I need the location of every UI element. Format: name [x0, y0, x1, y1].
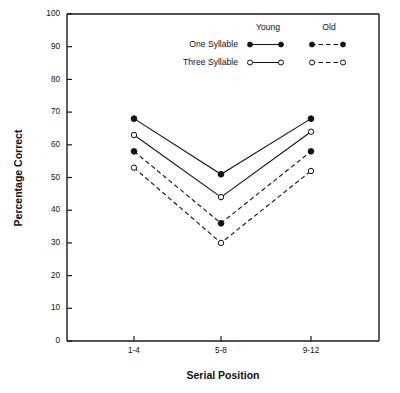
y-tick-label: 90 — [51, 42, 61, 51]
y-tick-label: 60 — [51, 140, 61, 149]
data-point-marker — [131, 132, 136, 137]
data-point-marker — [131, 148, 137, 154]
data-point-marker — [308, 116, 314, 122]
x-tick-label: 5-8 — [215, 346, 227, 355]
y-tick-label: 50 — [51, 173, 61, 182]
y-tick-label: 70 — [51, 107, 61, 116]
data-point-marker — [308, 148, 314, 154]
data-point-marker — [218, 240, 223, 245]
y-tick-label: 0 — [55, 336, 60, 345]
data-point-marker — [131, 165, 136, 170]
legend-label-one-syllable: One Syllable — [189, 39, 238, 49]
y-tick-label: 20 — [51, 271, 61, 280]
x-tick-label: 9-12 — [303, 346, 320, 355]
data-point-marker — [308, 168, 313, 173]
y-tick-label: 100 — [46, 9, 60, 18]
legend-header-old: Old — [322, 22, 336, 32]
data-point-marker — [218, 194, 223, 199]
x-tick-label: 1-4 — [128, 346, 140, 355]
legend-label-three-syllable: Three Syllable — [183, 57, 238, 67]
y-tick-label: 40 — [51, 205, 61, 214]
y-tick-label: 30 — [51, 238, 61, 247]
data-point-marker — [308, 129, 313, 134]
data-point-marker — [131, 116, 137, 122]
y-tick-label: 80 — [51, 75, 61, 84]
data-point-marker — [218, 220, 224, 226]
serial-position-line-chart: 0102030405060708090100 1-45-89-12 Percen… — [0, 0, 400, 393]
chart-figure: 0102030405060708090100 1-45-89-12 Percen… — [0, 0, 400, 393]
x-axis-title: Serial Position — [187, 369, 260, 381]
y-tick-label: 10 — [51, 303, 61, 312]
legend-header-young: Young — [256, 22, 280, 32]
y-axis-title: Percentage Correct — [12, 129, 24, 226]
data-point-marker — [218, 171, 224, 177]
